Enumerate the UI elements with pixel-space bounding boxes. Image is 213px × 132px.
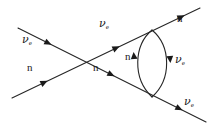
- label-loop-neutron: n: [125, 51, 131, 62]
- mid-neutron-arrow: [107, 70, 116, 79]
- label-outgoing-neutron-symbol: n: [177, 12, 183, 24]
- label-loop-neutrino-symbol: ν: [175, 53, 182, 66]
- label-outgoing-neutron: n: [177, 13, 183, 24]
- outgoing-neutrino-arrow: [175, 104, 184, 113]
- label-mid-neutron-symbol: n: [93, 61, 99, 73]
- incoming-neutron-arrow: [44, 39, 53, 48]
- label-incoming-neutrino-subscript: e: [29, 39, 32, 47]
- loop-neutrino-arrow: [166, 56, 173, 64]
- label-loop-neutrino-subscript: e: [182, 59, 185, 67]
- label-incoming-neutron-symbol: n: [27, 61, 33, 73]
- label-incoming-neutron: n: [27, 62, 33, 73]
- loop-neutron-arrow: [130, 52, 137, 60]
- label-mid-neutrino-symbol: ν: [99, 17, 106, 30]
- label-outgoing-neutrino-symbol: ν: [184, 95, 191, 108]
- label-loop-neutrino: νe: [175, 54, 185, 65]
- neutron-line: [18, 28, 206, 122]
- label-loop-neutron-symbol: n: [125, 50, 131, 62]
- label-outgoing-neutrino-subscript: e: [191, 101, 194, 109]
- label-mid-neutrino-subscript: e: [106, 23, 109, 31]
- label-mid-neutrino: νe: [99, 18, 109, 29]
- loop-right-arc: [152, 30, 167, 97]
- loop-left-arc: [138, 30, 152, 97]
- incoming-neutrino-arrow: [40, 78, 49, 87]
- feynman-diagram-canvas: νe n νe n n n νe νe: [0, 0, 213, 132]
- label-incoming-neutrino: νe: [22, 34, 32, 45]
- label-incoming-neutrino-symbol: ν: [22, 33, 29, 46]
- label-mid-neutron: n: [93, 62, 99, 73]
- label-outgoing-neutrino: νe: [184, 96, 194, 107]
- mid-neutrino-arrow: [112, 43, 121, 52]
